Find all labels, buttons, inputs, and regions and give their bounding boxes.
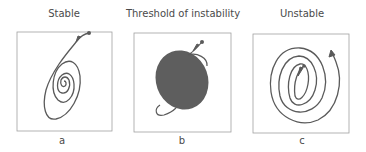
panel-c-label: c — [292, 135, 312, 146]
unstable-spiral-trajectory — [270, 48, 339, 123]
start-point-icon — [200, 40, 204, 44]
arrow-icon — [76, 36, 81, 42]
panel-b — [134, 33, 231, 132]
panel-b-label: b — [172, 135, 192, 146]
start-point-icon — [302, 64, 306, 68]
arrow-icon — [193, 44, 199, 51]
panel-c — [253, 34, 349, 133]
panel-a — [17, 31, 112, 131]
panel-c-frame — [253, 34, 349, 133]
panel-a-label: a — [52, 135, 72, 146]
arrow-icon — [298, 67, 303, 76]
filled-orbit-region — [147, 43, 216, 117]
start-point-icon — [87, 31, 91, 35]
diagram-canvas — [0, 0, 366, 152]
stable-spiral-trajectory — [44, 33, 89, 119]
